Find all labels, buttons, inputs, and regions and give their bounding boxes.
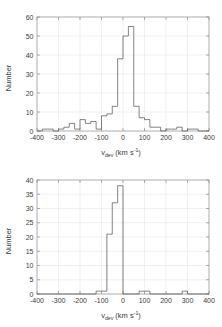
xtick-label: 400 <box>203 297 215 304</box>
xtick-label: -200 <box>73 297 87 304</box>
ytick-label: 30 <box>26 205 34 212</box>
ytick-label: 10 <box>26 262 34 269</box>
xtick-label: 100 <box>139 134 151 141</box>
top-xaxis-close-paren: ) <box>138 148 141 157</box>
top-xtick-labels: -400-300-200-1000100200300400 <box>30 134 215 141</box>
ytick-label: 25 <box>26 219 34 226</box>
xtick-label: -400 <box>30 297 44 304</box>
xtick-label: 200 <box>160 134 172 141</box>
ytick-label: 40 <box>26 177 34 184</box>
ytick-label: 30 <box>26 71 34 78</box>
xtick-label: 300 <box>182 134 194 141</box>
ytick-label: 0 <box>30 128 34 135</box>
ytick-label: 0 <box>30 291 34 298</box>
ytick-label: 20 <box>26 90 34 97</box>
bottom-histogram-steps <box>37 186 209 294</box>
ytick-label: 35 <box>26 191 34 198</box>
figure-root: -400-300-200-1000100200300400 0102030405… <box>0 0 222 327</box>
top-xaxis-title: vdev (km s-1) <box>101 147 141 158</box>
ytick-label: 50 <box>26 33 34 40</box>
ytick-label: 5 <box>30 276 34 283</box>
xtick-label: -100 <box>94 134 108 141</box>
bottom-histogram-panel: -400-300-200-1000100200300400 0510152025… <box>0 163 222 326</box>
xtick-label: -100 <box>94 297 108 304</box>
top-xaxis-unit: (km s <box>113 148 134 157</box>
bottom-xtick-labels: -400-300-200-1000100200300400 <box>30 297 215 304</box>
bottom-yaxis-title: Number <box>4 227 13 254</box>
ytick-label: 20 <box>26 234 34 241</box>
xtick-label: -300 <box>51 297 65 304</box>
xtick-label: 100 <box>139 297 151 304</box>
xtick-label: 0 <box>121 297 125 304</box>
xtick-label: 200 <box>160 297 172 304</box>
top-ytick-labels: 0102030405060 <box>26 14 34 135</box>
top-gridlines <box>37 17 209 131</box>
xtick-label: 400 <box>203 134 215 141</box>
ytick-label: 15 <box>26 248 34 255</box>
bottom-xaxis-title: vdev (km s-1) <box>101 310 141 321</box>
ytick-label: 40 <box>26 52 34 59</box>
bottom-xaxis-unit: (km s <box>113 311 134 320</box>
top-yaxis-title: Number <box>4 64 13 91</box>
xtick-label: -300 <box>51 134 65 141</box>
bottom-histogram-svg: -400-300-200-1000100200300400 0510152025… <box>0 163 222 326</box>
top-histogram-panel: -400-300-200-1000100200300400 0102030405… <box>0 0 222 163</box>
xtick-label: 0 <box>121 134 125 141</box>
ytick-label: 10 <box>26 109 34 116</box>
xtick-label: -400 <box>30 134 44 141</box>
top-histogram-svg: -400-300-200-1000100200300400 0102030405… <box>0 0 222 163</box>
xtick-label: -200 <box>73 134 87 141</box>
bottom-xaxis-close-paren: ) <box>138 311 141 320</box>
bottom-ytick-labels: 0510152025303540 <box>26 177 34 298</box>
ytick-label: 60 <box>26 14 34 21</box>
xtick-label: 300 <box>182 297 194 304</box>
